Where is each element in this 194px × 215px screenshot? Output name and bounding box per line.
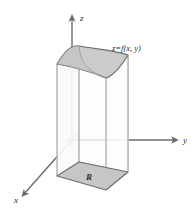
- diagram-canvas: R z=f(x, y) z y x: [0, 0, 194, 215]
- surface-label: z=f(x, y): [111, 43, 141, 53]
- y-axis-label: y: [182, 135, 187, 145]
- region-r-label: R: [85, 172, 92, 182]
- figure-container: R z=f(x, y) z y x: [0, 0, 194, 215]
- z-axis-label: z: [79, 13, 84, 23]
- x-axis-label: x: [13, 195, 18, 205]
